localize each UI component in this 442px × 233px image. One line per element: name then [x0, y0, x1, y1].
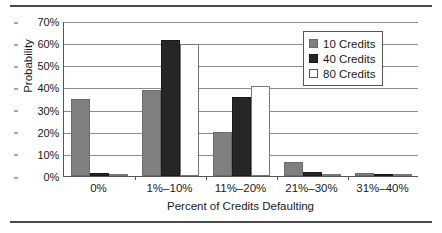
- legend-swatch-icon: [309, 54, 318, 63]
- y-tick-label: 60%: [18, 39, 59, 50]
- bar: [355, 173, 374, 176]
- legend-label: 80 Credits: [323, 68, 375, 80]
- y-tick-mark: [14, 88, 18, 89]
- y-tick-label: 40%: [18, 83, 59, 94]
- y-tick-label: 10%: [18, 149, 59, 160]
- y-tick-mark: [14, 177, 18, 178]
- figure-container: Probability 0%10%20%30%40%50%60%70% 0%1%…: [0, 0, 442, 233]
- y-tick-mark: [14, 155, 18, 156]
- legend-swatch-icon: [309, 39, 318, 48]
- y-tick-label: 20%: [18, 127, 59, 138]
- bar: [393, 174, 412, 176]
- bar: [284, 162, 303, 176]
- bar: [232, 97, 251, 176]
- y-tick-mark: [14, 111, 18, 112]
- x-tick-label: 11%–20%: [215, 182, 267, 194]
- x-axis-tick-labels: 0%1%–10%11%–20%21%–30%31%–40%: [63, 182, 418, 198]
- bar: [213, 132, 232, 176]
- y-tick-label: 70%: [18, 17, 59, 28]
- bar-group: [135, 22, 206, 176]
- y-axis-tick-labels: 0%10%20%30%40%50%60%70%: [18, 22, 59, 177]
- bar: [71, 99, 90, 176]
- y-tick-label: 50%: [18, 61, 59, 72]
- x-tick-label: 21%–30%: [285, 182, 337, 194]
- figure-top-rule: [10, 5, 432, 7]
- legend: 10 Credits40 Credits80 Credits: [303, 31, 383, 86]
- category-separator-tick: [277, 176, 278, 180]
- y-tick-mark: [14, 66, 18, 67]
- y-tick-label: 30%: [18, 105, 59, 116]
- legend-swatch-icon: [309, 69, 318, 78]
- legend-label: 10 Credits: [323, 38, 375, 50]
- bar: [303, 172, 322, 176]
- x-axis-title: Percent of Credits Defaulting: [63, 200, 418, 212]
- y-tick-mark: [14, 44, 18, 45]
- x-tick-label: 0%: [90, 182, 107, 194]
- gridline: [64, 177, 418, 178]
- legend-item[interactable]: 10 Credits: [309, 36, 375, 51]
- bar: [142, 90, 161, 176]
- figure-bottom-rule: [10, 221, 432, 223]
- y-tick-label: 0%: [18, 172, 59, 183]
- category-separator-tick: [348, 176, 349, 180]
- bar: [322, 174, 341, 176]
- bar-group: [206, 22, 277, 176]
- legend-item[interactable]: 40 Credits: [309, 51, 375, 66]
- bar-group: [64, 22, 135, 176]
- bar: [109, 174, 128, 176]
- y-tick-mark: [14, 133, 18, 134]
- legend-item[interactable]: 80 Credits: [309, 66, 375, 81]
- bar: [90, 173, 109, 176]
- y-tick-mark: [14, 22, 18, 23]
- bar: [374, 174, 393, 176]
- category-separator-tick: [135, 176, 136, 180]
- bar: [180, 44, 199, 176]
- x-tick-label: 1%–10%: [146, 182, 192, 194]
- legend-label: 40 Credits: [323, 53, 375, 65]
- x-tick-label: 31%–40%: [356, 182, 408, 194]
- category-separator-tick: [206, 176, 207, 180]
- bar: [161, 40, 180, 176]
- bar: [251, 86, 270, 176]
